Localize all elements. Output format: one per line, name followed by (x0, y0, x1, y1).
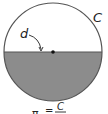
center-dot (51, 50, 55, 54)
lower-semicircle (4, 52, 102, 101)
formula-equals: = (45, 105, 53, 114)
diameter-label: d (20, 26, 29, 41)
formula-numerator: C (57, 101, 64, 112)
circumference-label: C (93, 10, 103, 25)
circle-diagram: d C π = C (0, 0, 108, 114)
formula-pi: π (32, 107, 39, 114)
